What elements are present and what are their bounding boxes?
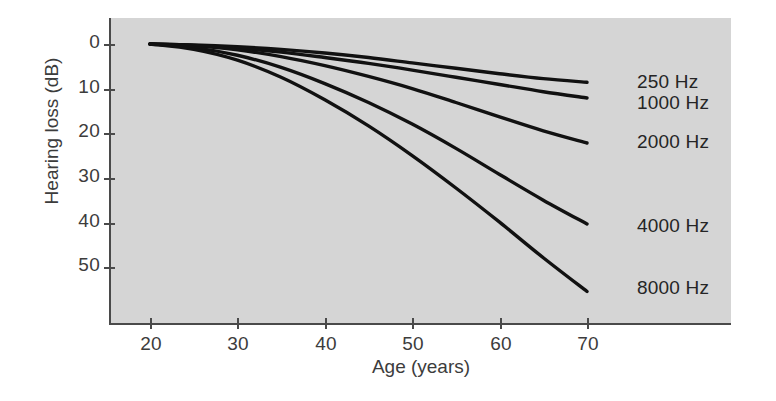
y-tick-0 bbox=[104, 44, 115, 46]
x-tick-label-40: 40 bbox=[296, 333, 356, 355]
hearing-loss-figure: 0 10 20 30 40 50 20 30 40 50 60 70 Heari… bbox=[0, 0, 776, 401]
y-tick-label-50: 50 bbox=[60, 254, 100, 276]
series-label-1000hz: 1000 Hz bbox=[637, 92, 709, 114]
y-tick-label-0: 0 bbox=[60, 31, 100, 53]
y-tick-label-30: 30 bbox=[60, 165, 100, 187]
x-tick-20 bbox=[150, 318, 152, 329]
x-axis-line bbox=[109, 323, 731, 325]
x-tick-label-60: 60 bbox=[471, 333, 531, 355]
y-tick-10 bbox=[104, 89, 115, 91]
series-label-8000hz: 8000 Hz bbox=[637, 277, 709, 299]
x-tick-30 bbox=[237, 318, 239, 329]
x-tick-label-30: 30 bbox=[208, 333, 268, 355]
x-axis-title: Age (years) bbox=[111, 356, 731, 378]
series-label-4000hz: 4000 Hz bbox=[637, 215, 709, 237]
series-label-250hz: 250 Hz bbox=[637, 71, 698, 93]
x-tick-70 bbox=[587, 318, 589, 329]
y-tick-30 bbox=[104, 178, 115, 180]
x-tick-label-50: 50 bbox=[383, 333, 443, 355]
y-axis-line bbox=[109, 18, 111, 325]
x-tick-60 bbox=[500, 318, 502, 329]
x-tick-40 bbox=[325, 318, 327, 329]
x-tick-label-70: 70 bbox=[558, 333, 618, 355]
y-tick-40 bbox=[104, 223, 115, 225]
x-tick-label-20: 20 bbox=[121, 333, 181, 355]
y-tick-label-20: 20 bbox=[60, 120, 100, 142]
x-tick-50 bbox=[412, 318, 414, 329]
y-tick-label-40: 40 bbox=[60, 210, 100, 232]
y-tick-20 bbox=[104, 133, 115, 135]
series-label-2000hz: 2000 Hz bbox=[637, 131, 709, 153]
y-tick-label-10: 10 bbox=[60, 76, 100, 98]
y-tick-50 bbox=[104, 267, 115, 269]
y-axis-title: Hearing loss (dB) bbox=[41, 11, 63, 251]
